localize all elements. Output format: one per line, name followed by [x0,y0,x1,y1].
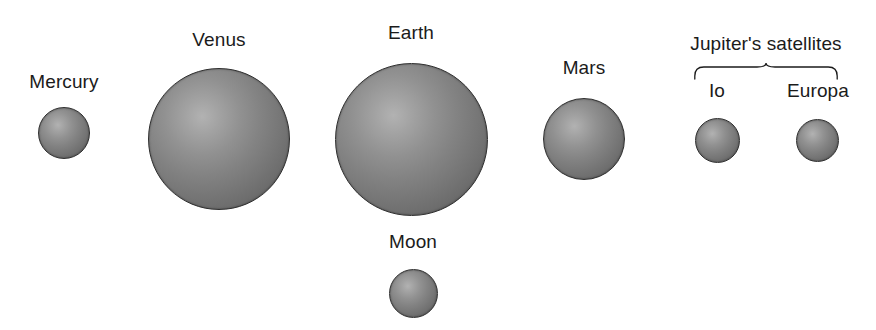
earth-sphere [335,63,488,216]
io-sphere [695,118,740,163]
curly-brace-icon [694,62,838,80]
mars-sphere [543,98,625,180]
earth-label: Earth [388,22,434,44]
planet-size-comparison-diagram: Mercury Venus Earth Mars Io Europa Moon … [0,0,876,330]
mercury-sphere [38,107,90,159]
io-label: Io [709,80,725,102]
europa-sphere [796,119,839,162]
venus-sphere [148,68,290,210]
europa-label: Europa [787,80,849,102]
moon-label: Moon [389,231,437,253]
venus-label: Venus [192,29,245,51]
moon-sphere [389,269,438,318]
mars-label: Mars [563,57,606,79]
curly-brace-svg [694,62,838,80]
mercury-label: Mercury [29,71,98,93]
jupiter-satellites-label: Jupiter's satellites [690,33,841,55]
